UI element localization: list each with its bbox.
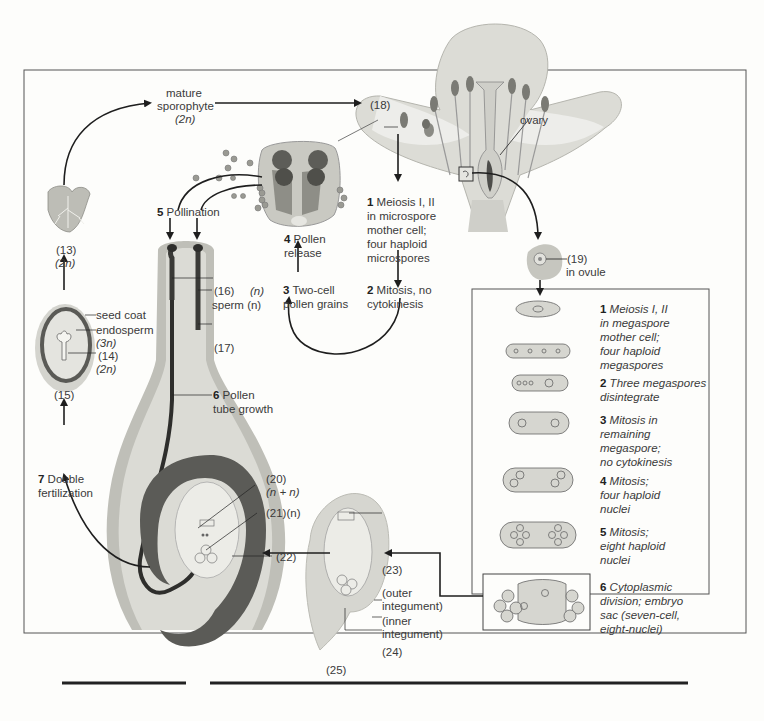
label-seed-coat: seed coat [96,308,146,322]
label-15: (15) [54,388,74,402]
female-step-3: 3 Mitosis in remaining megaspore; no cyt… [600,413,672,469]
label-outer-1: (outer [382,586,412,600]
male-step-6: 6 Pollen tube growth [213,388,273,416]
label-14: (14) [98,349,118,363]
label-in-ovule: in ovule [566,265,606,279]
label-16: (16) [214,284,234,298]
ovule-illustration [527,244,567,280]
label-sperm: sperm (n) [212,298,261,312]
label-20: (20) [266,472,286,486]
label-13: (13) [56,243,76,257]
label-endosperm-ploidy: (3n) [96,336,116,350]
label-14-ploidy: (2n) [96,362,116,376]
label-24: (24) [382,645,402,659]
female-step-1: 1 Meiosis I, II in megaspore mother cell… [600,302,670,372]
label-20-ploidy: (n + n) [266,485,300,499]
label-outer-2: integument) [382,599,443,613]
label-inner-2: integument) [382,627,443,641]
seed-illustration [35,304,95,392]
label-19: (19) [567,252,587,266]
male-step-4: 4 Pollen release [284,232,326,260]
label-17: (17) [214,341,234,355]
male-step-7: 7 Double fertilization [38,472,93,500]
label-ovary: ovary [520,113,548,127]
megaspore-panel [472,289,709,594]
male-step-3: 3 Two-cell pollen grains [283,283,348,311]
male-step-5: 5 Pollination [157,205,220,219]
label-mature: mature [166,86,202,100]
label-22: (22) [276,550,296,564]
female-step-4: 4 Mitosis; four haploid nuclei [600,474,660,516]
label-inner-1: (inner [382,614,411,628]
male-step-1: 1 Meiosis I, II in microspore mother cel… [367,195,436,265]
seedling-illustration [48,186,90,232]
label-25: (25) [326,663,346,677]
male-step-2: 2 Mitosis, no cytokinesis [367,283,432,311]
female-step-6: 6 Cytoplasmic division; embryo sac (seve… [600,580,683,636]
anther-cross-section-illustration [193,120,378,226]
label-13-ploidy: (2n) [55,256,75,270]
mature-ovule-illustration [306,493,389,650]
label-23: (23) [382,563,402,577]
label-sporophyte-ploidy: (2n) [175,112,195,126]
female-step-2: 2 Three megaspores disintegrate [600,376,706,404]
label-21: (21)(n) [266,506,301,520]
label-sporophyte: sporophyte [157,99,214,113]
label-endosperm: endosperm [96,323,154,337]
label-18: (18) [370,98,390,112]
label-16-ploidy: (n) [250,284,264,298]
female-step-5: 5 Mitosis; eight haploid nuclei [600,525,665,567]
